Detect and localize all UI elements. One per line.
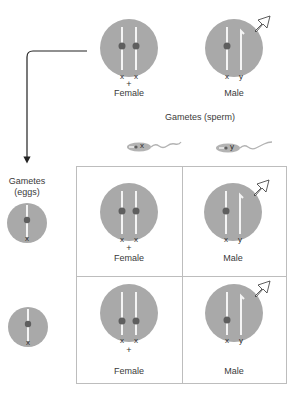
female-symbol: + bbox=[124, 243, 134, 253]
egg-chromosome-label: x bbox=[23, 338, 33, 347]
sperm-x bbox=[127, 142, 181, 152]
offspring-label: Male bbox=[213, 253, 253, 263]
sex-determination-diagram: x x + Female x y Male Gametes (sperm) x … bbox=[0, 0, 295, 393]
chromosome-label: x bbox=[222, 72, 232, 81]
parent-female-label: Female bbox=[109, 88, 149, 98]
gametes-eggs-label-line1: Gametes bbox=[2, 176, 52, 186]
parent-male-label: Male bbox=[214, 88, 254, 98]
female-symbol: + bbox=[124, 345, 134, 355]
chromosome-label: x bbox=[131, 336, 141, 345]
offspring-male-2 bbox=[205, 281, 270, 342]
chromosome-label: x bbox=[117, 336, 127, 345]
offspring-label: Female bbox=[109, 366, 149, 376]
chromosome-label: x bbox=[222, 336, 232, 345]
male-symbol-arrow-icon bbox=[255, 281, 270, 297]
gametes-eggs-label-line2: (eggs) bbox=[2, 187, 52, 197]
egg-chromosome-label: x bbox=[22, 234, 32, 243]
sperm-y bbox=[216, 142, 272, 153]
offspring-female-1 bbox=[100, 183, 158, 241]
offspring-female-2 bbox=[100, 284, 158, 342]
parent-female-cell bbox=[100, 19, 158, 77]
chromosome-label: x bbox=[221, 235, 231, 244]
female-to-eggs-arrow bbox=[27, 51, 87, 160]
male-symbol-arrow-icon bbox=[255, 16, 270, 32]
offspring-male-1 bbox=[204, 180, 269, 241]
parent-male-cell bbox=[205, 16, 270, 77]
chromosome-label: y bbox=[236, 336, 246, 345]
sperm-chromosome-label: x bbox=[137, 141, 147, 150]
offspring-label: Male bbox=[214, 366, 254, 376]
male-symbol-arrow-icon bbox=[254, 180, 269, 196]
chromosome-label: y bbox=[236, 72, 246, 81]
gametes-sperm-label: Gametes (sperm) bbox=[150, 112, 250, 122]
offspring-label: Female bbox=[109, 253, 149, 263]
chromosome-label: y bbox=[235, 235, 245, 244]
sperm-chromosome-label: y bbox=[227, 142, 237, 151]
